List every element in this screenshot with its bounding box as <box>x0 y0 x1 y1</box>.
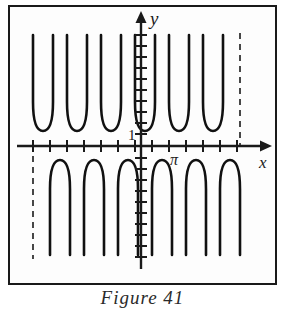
x-axis-group <box>17 141 272 152</box>
lower-branches <box>50 160 240 255</box>
upper-branch-1 <box>33 35 53 131</box>
lower-branch-5 <box>186 160 206 255</box>
figure-caption: Figure 41 <box>0 287 285 309</box>
upper-branch-5 <box>169 35 189 131</box>
figure-caption-area: Figure 41 <box>0 287 285 309</box>
lower-branch-3 <box>118 160 138 255</box>
y-axis-label: y <box>148 8 159 29</box>
upper-branch-2 <box>67 35 87 131</box>
lower-branch-6 <box>220 160 240 255</box>
secant-graph-svg: y x π 1 <box>10 7 275 283</box>
upper-branch-3 <box>101 35 121 131</box>
lower-branch-2 <box>84 160 104 255</box>
x-axis-arrowhead <box>260 141 272 152</box>
plot-frame: y x π 1 <box>8 5 277 285</box>
y-axis-arrowhead <box>136 11 147 23</box>
upper-branch-6 <box>203 35 223 131</box>
one-tick-label: 1 <box>128 127 136 143</box>
upper-branch-4 <box>135 35 155 131</box>
upper-branches <box>33 35 223 131</box>
figure-41-container: y x π 1 Figure 41 <box>0 0 285 309</box>
lower-branch-1 <box>50 160 70 255</box>
x-axis-label: x <box>258 153 267 172</box>
pi-tick-label: π <box>170 151 179 168</box>
lower-branch-4 <box>152 160 172 255</box>
